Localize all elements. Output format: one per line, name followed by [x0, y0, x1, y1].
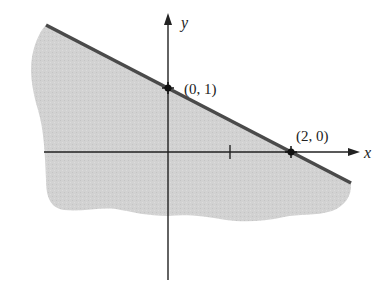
y-axis-arrow-icon	[164, 13, 172, 25]
y-axis-label: y	[179, 14, 189, 32]
x-axis-label: x	[363, 144, 371, 161]
x-axis-arrow-icon	[348, 148, 360, 156]
point-label-2-0: (2, 0)	[296, 128, 329, 145]
inequality-graph: y x (0, 1) (2, 0)	[0, 0, 383, 287]
point-label-0-1: (0, 1)	[184, 81, 217, 98]
shaded-region	[31, 25, 351, 221]
